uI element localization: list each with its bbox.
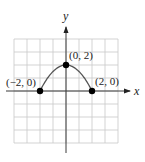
parabola-chart: x y (−2, 0)(0, 2)(2, 0) (0, 0, 145, 162)
point-label: (2, 0) (95, 75, 119, 88)
y-axis-label: y (62, 9, 69, 23)
points: (−2, 0)(0, 2)(2, 0) (6, 49, 119, 94)
data-point (37, 88, 43, 94)
point-label: (−2, 0) (6, 76, 36, 89)
data-point (89, 88, 95, 94)
data-point (63, 62, 69, 68)
x-axis-arrow-icon (124, 89, 131, 94)
y-axis-arrow-icon (64, 26, 69, 33)
x-axis-label: x (133, 84, 140, 98)
point-label: (0, 2) (69, 49, 93, 62)
